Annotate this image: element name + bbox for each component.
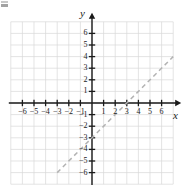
y-tick-label: −6 [79,169,88,177]
y-tick-label: 6 [84,29,88,37]
y-tick-label: −4 [79,145,88,153]
y-tick-label: 3 [84,64,88,72]
y-axis-arrowhead [89,13,95,19]
y-tick-label: −3 [79,134,88,142]
x-tick-label: 6 [153,108,171,116]
y-tick-label: 2 [84,76,88,84]
y-tick-label: −1 [79,111,88,119]
axes [9,13,181,185]
y-tick-label: −2 [79,122,88,130]
graph-figure: x y −6−5−4−3−2−1123456 654321−1−2−3−4−5−… [0,0,186,185]
y-tick-label: −5 [79,157,88,165]
y-tick-label: 1 [84,87,88,95]
y-tick-label: 5 [84,41,88,49]
x-axis-label: x [173,110,178,121]
y-tick-label: 4 [84,53,88,61]
coordinate-plane [0,0,186,185]
y-axis-label: y [80,8,85,19]
x-axis-arrowhead [175,100,181,106]
